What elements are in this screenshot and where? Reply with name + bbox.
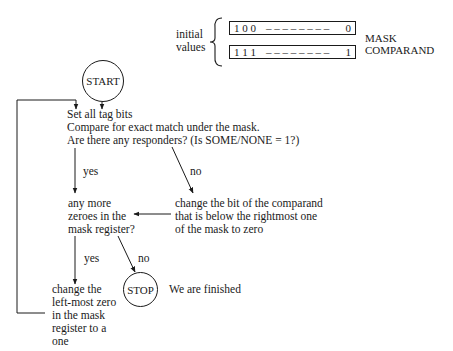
change-comparand-line2: that is below the rightmost one	[175, 210, 317, 224]
zeroes-no-label: no	[138, 252, 150, 266]
start-node: START	[82, 60, 124, 102]
change-mask-line5: one	[52, 335, 69, 349]
change-mask-line1: change the	[52, 283, 102, 297]
change-mask-line4: register to a	[52, 322, 106, 336]
decision2-line2: zeroes in the	[68, 210, 126, 224]
step1-line2: Compare for exact match under the mask.	[67, 121, 260, 135]
stop-note: We are finished	[169, 283, 241, 297]
change-comparand-line3: of the mask to zero	[175, 223, 263, 237]
decision2-line1: any more	[68, 197, 111, 211]
start-label: START	[86, 75, 119, 87]
mask-register-leading-bits: 1 0 0	[234, 22, 256, 34]
change-mask-line3: in the mask	[52, 309, 105, 323]
brace	[210, 18, 222, 66]
zeroes-yes-label: yes	[84, 252, 99, 266]
comparand-register-box: 1 1 1 – – – – – – – – 1	[229, 45, 356, 59]
decision2-line3: mask register?	[68, 223, 135, 237]
responders-yes-label: yes	[83, 165, 98, 179]
stop-node: STOP	[123, 272, 158, 307]
step1-line1: Set all tag bits	[67, 108, 132, 122]
mask-register-dashes: – – – – – – – –	[266, 22, 329, 34]
initial-values-label-line2: values	[176, 41, 205, 55]
stop-label: STOP	[127, 284, 154, 296]
comparand-register-last-bit: 1	[346, 46, 352, 58]
change-mask-line2: left-most zero	[52, 296, 116, 310]
responders-no-label: no	[190, 165, 202, 179]
step1-line3: Are there any responders? (Is SOME/NONE …	[67, 134, 299, 148]
change-comparand-line1: change the bit of the comparand	[175, 197, 323, 211]
initial-values-label-line1: initial	[176, 28, 203, 42]
comparand-label: COMPARAND	[365, 44, 434, 58]
comparand-register-dashes: – – – – – – – –	[266, 46, 329, 58]
mask-register-box: 1 0 0 – – – – – – – – 0	[229, 21, 356, 35]
mask-register-last-bit: 0	[346, 22, 352, 34]
comparand-register-leading-bits: 1 1 1	[234, 46, 256, 58]
